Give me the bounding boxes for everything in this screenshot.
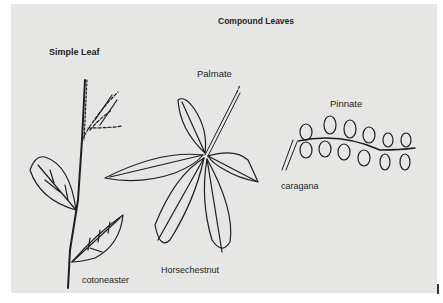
caragana-twig bbox=[282, 140, 297, 170]
horsechestnut-drawing bbox=[105, 85, 258, 252]
figure-title: Compound Leaves bbox=[218, 16, 294, 26]
horsechestnut-petiole bbox=[205, 92, 240, 156]
cotoneaster-drawing bbox=[30, 80, 123, 288]
caragana-rachis bbox=[298, 138, 415, 150]
horsechestnut-label: Horsechestnut bbox=[161, 265, 219, 275]
caragana-label: caragana bbox=[281, 181, 319, 191]
pinnate-heading: Pinnate bbox=[330, 98, 362, 109]
cotoneaster-label: cotoneaster bbox=[82, 275, 129, 285]
palmate-heading: Palmate bbox=[197, 68, 232, 79]
simple-leaf-heading: Simple Leaf bbox=[49, 47, 100, 57]
caragana-drawing bbox=[282, 116, 415, 170]
edge-mark bbox=[437, 284, 439, 294]
leaflet-lower-right bbox=[204, 159, 230, 248]
caragana-leaflets bbox=[300, 116, 411, 170]
cotoneaster-upper-bud bbox=[82, 92, 122, 140]
leaf-illustrations bbox=[0, 0, 443, 303]
